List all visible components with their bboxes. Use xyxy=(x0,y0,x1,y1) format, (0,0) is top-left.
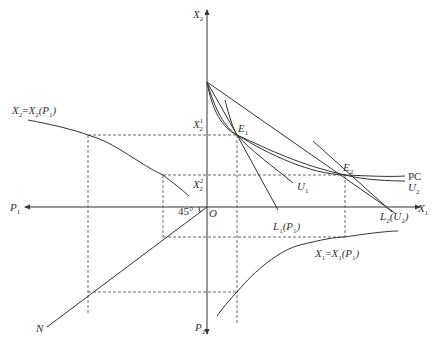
angle-arc xyxy=(199,207,201,212)
line-on xyxy=(47,207,207,327)
label-x2-demand: X2=X2(P1) xyxy=(11,104,57,119)
label-l1: L1(P1) xyxy=(272,220,301,235)
budget-line-l1 xyxy=(207,82,278,210)
label-p2-axis: P2 xyxy=(194,321,206,336)
labels: X2 X1 P1 P2 O 45° X12 X22 E1 E2 PC U2 U1… xyxy=(9,8,429,336)
label-e1: E1 xyxy=(237,122,249,137)
label-x2-axis: X2 xyxy=(192,8,204,23)
axes xyxy=(25,10,420,334)
label-u2: U2 xyxy=(408,181,420,196)
label-n: N xyxy=(35,322,44,334)
label-l2: L2(U2) xyxy=(379,210,409,225)
label-u1: U1 xyxy=(297,180,309,195)
indifference-u1 xyxy=(225,100,293,183)
label-angle: 45° xyxy=(178,205,193,217)
label-x1-axis: X1 xyxy=(417,202,429,217)
label-x2-level-1: X12 xyxy=(192,117,204,133)
price-consumption-diagram: X2 X1 P1 P2 O 45° X12 X22 E1 E2 PC U2 U1… xyxy=(0,0,434,347)
label-e2: E2 xyxy=(342,161,354,176)
label-p1-axis: P1 xyxy=(9,201,21,216)
label-x2-level-2: X22 xyxy=(192,177,204,193)
curves xyxy=(28,82,405,327)
demand-curve-x2 xyxy=(28,120,189,196)
budget-line-l2 xyxy=(207,82,395,213)
dashed-guides xyxy=(88,135,345,323)
label-x1-demand: X1=X1(P1) xyxy=(314,247,360,262)
demand-curve-x1 xyxy=(217,231,398,316)
label-origin: O xyxy=(209,207,217,219)
